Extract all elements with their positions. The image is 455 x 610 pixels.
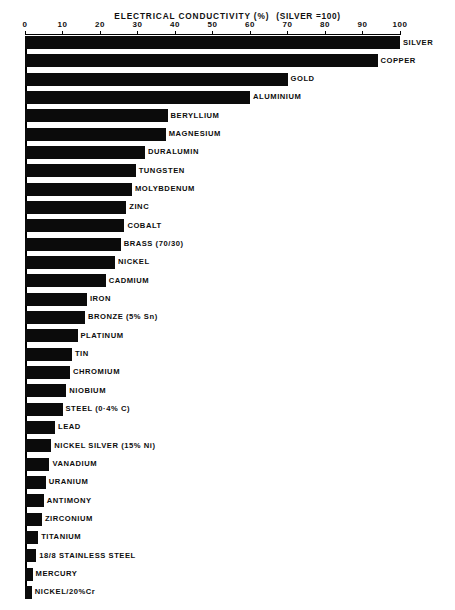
bar xyxy=(25,549,36,562)
bar xyxy=(25,531,38,544)
bar-label: BERYLLIUM xyxy=(171,111,220,121)
bar xyxy=(25,568,33,581)
bar-label: NICKEL xyxy=(118,257,150,267)
bar xyxy=(25,73,288,86)
bar-row: MERCURY xyxy=(0,568,455,581)
bar-label: ANTIMONY xyxy=(47,496,92,506)
bar-label: CHROMIUM xyxy=(73,367,120,377)
bar-label: TUNGSTEN xyxy=(139,166,185,176)
plot-area: SILVERCOPPERGOLDALUMINIUMBERYLLIUMMAGNES… xyxy=(0,0,455,610)
bar-row: DURALUMIN xyxy=(0,146,455,159)
bar-row: STEEL (0·4% C) xyxy=(0,403,455,416)
bar-label: LEAD xyxy=(58,422,81,432)
bar xyxy=(25,238,121,251)
bar-row: SILVER xyxy=(0,36,455,49)
bar-row: TITANIUM xyxy=(0,531,455,544)
bar xyxy=(25,513,42,526)
bar-row: VANADIUM xyxy=(0,458,455,471)
bar-row: COPPER xyxy=(0,54,455,67)
bar xyxy=(25,586,32,599)
bar xyxy=(25,421,55,434)
bar-row: MOLYBDENUM xyxy=(0,183,455,196)
bar xyxy=(25,274,106,287)
bar-row: GOLD xyxy=(0,73,455,86)
bar-row: URANIUM xyxy=(0,476,455,489)
bar-row: MAGNESIUM xyxy=(0,128,455,141)
bar-row: CADMIUM xyxy=(0,274,455,287)
bar-label: TIN xyxy=(75,349,89,359)
bar-row: PLATINUM xyxy=(0,329,455,342)
bar-row: COBALT xyxy=(0,219,455,232)
bar-label: STEEL (0·4% C) xyxy=(66,404,131,414)
bar-row: BRONZE (5% Sn) xyxy=(0,311,455,324)
bar-label: 18/8 STAINLESS STEEL xyxy=(39,551,136,561)
bar-row: ANTIMONY xyxy=(0,494,455,507)
bar xyxy=(25,293,87,306)
bar-label: DURALUMIN xyxy=(148,147,199,157)
bar-row: LEAD xyxy=(0,421,455,434)
bar xyxy=(25,109,168,122)
bar-label: PLATINUM xyxy=(81,331,124,341)
bar xyxy=(25,164,136,177)
bar xyxy=(25,201,126,214)
bar xyxy=(25,256,115,269)
bar xyxy=(25,348,72,361)
bar-row: 18/8 STAINLESS STEEL xyxy=(0,549,455,562)
bar-label: NICKEL SILVER (15% Ni) xyxy=(54,441,155,451)
bar-row: ALUMINIUM xyxy=(0,91,455,104)
bar xyxy=(25,439,51,452)
bar-label: BRONZE (5% Sn) xyxy=(88,312,158,322)
bar-row: ZINC xyxy=(0,201,455,214)
bar-label: VANADIUM xyxy=(52,459,97,469)
bar-row: CHROMIUM xyxy=(0,366,455,379)
bar-label: COBALT xyxy=(127,221,161,231)
bar xyxy=(25,329,78,342)
bar xyxy=(25,476,46,489)
bar-row: NICKEL SILVER (15% Ni) xyxy=(0,439,455,452)
bar-row: BRASS (70/30) xyxy=(0,238,455,251)
electrical-conductivity-bar-chart: ELECTRICAL CONDUCTIVITY (%)(SILVER =100)… xyxy=(0,0,455,610)
bar-row: NICKEL/20%Cr xyxy=(0,586,455,599)
bar-row: ZIRCONIUM xyxy=(0,513,455,526)
bar-label: ZIRCONIUM xyxy=(45,514,93,524)
bar-label: URANIUM xyxy=(49,477,89,487)
bar xyxy=(25,183,132,196)
bar-label: SILVER xyxy=(403,38,433,48)
bar-row: NICKEL xyxy=(0,256,455,269)
bar xyxy=(25,54,378,67)
bar xyxy=(25,36,400,49)
bar-label: BRASS (70/30) xyxy=(124,239,184,249)
bar-row: NIOBIUM xyxy=(0,384,455,397)
bar xyxy=(25,366,70,379)
bar xyxy=(25,458,49,471)
bar-label: MAGNESIUM xyxy=(169,129,221,139)
bar-label: ZINC xyxy=(129,202,149,212)
bar xyxy=(25,128,166,141)
bar xyxy=(25,494,44,507)
bar-row: BERYLLIUM xyxy=(0,109,455,122)
bar-label: CADMIUM xyxy=(109,276,150,286)
bar-label: ALUMINIUM xyxy=(253,92,301,102)
bar-label: IRON xyxy=(90,294,111,304)
bar xyxy=(25,384,66,397)
bar-label: COPPER xyxy=(381,56,416,66)
bar xyxy=(25,146,145,159)
bar-label: NIOBIUM xyxy=(69,386,106,396)
bar-label: GOLD xyxy=(291,74,315,84)
bar xyxy=(25,403,63,416)
bar xyxy=(25,311,85,324)
bar xyxy=(25,91,250,104)
bar-label: NICKEL/20%Cr xyxy=(35,587,96,597)
bar-row: IRON xyxy=(0,293,455,306)
bar xyxy=(25,219,124,232)
bar-row: TUNGSTEN xyxy=(0,164,455,177)
bar-label: MERCURY xyxy=(36,569,78,579)
bar-row: TIN xyxy=(0,348,455,361)
bar-label: TITANIUM xyxy=(41,532,81,542)
bar-label: MOLYBDENUM xyxy=(135,184,195,194)
